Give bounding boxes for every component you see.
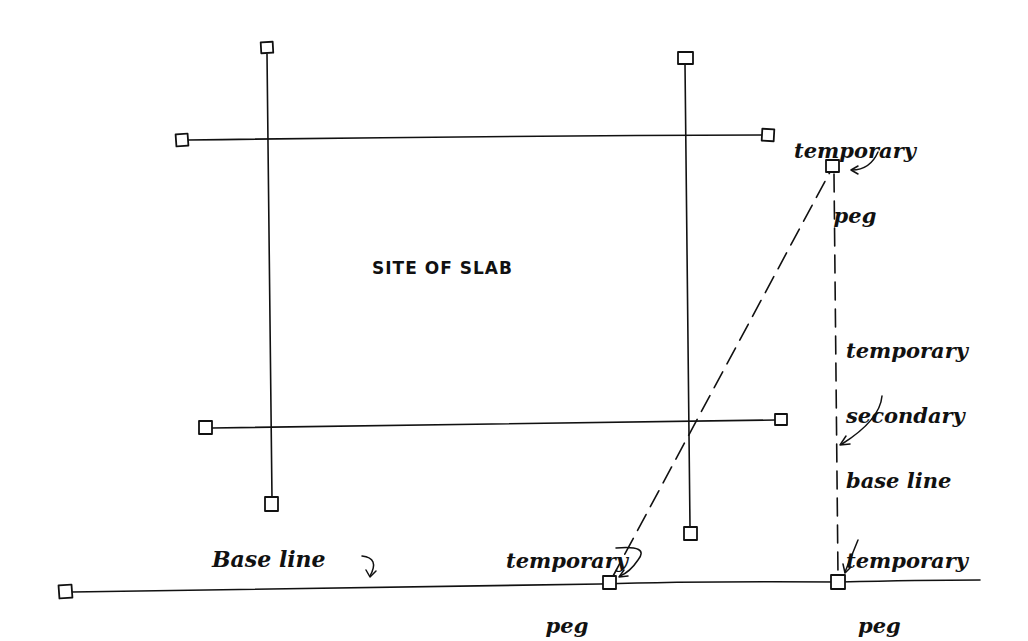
label-line: peg — [794, 205, 916, 226]
label-line: peg — [506, 615, 628, 636]
label-line: temporary — [794, 140, 916, 161]
left-vertical-line — [267, 54, 272, 499]
temporary-peg-bottom-mid-label: temporary peg — [506, 508, 628, 641]
peg-icon — [59, 585, 73, 599]
pegs — [59, 42, 845, 599]
label-line: temporary — [846, 550, 968, 571]
top-horizontal-line — [188, 135, 762, 140]
peg-icon — [261, 42, 274, 54]
temporary-secondary-base-line-label: temporary secondary base line — [846, 298, 968, 512]
peg-icon — [762, 129, 775, 142]
peg-icon — [678, 52, 693, 64]
site-of-slab-label: SITE OF SLAB — [372, 260, 513, 277]
label-line: base line — [846, 470, 968, 491]
peg-icon — [176, 134, 189, 147]
base-line-label: Base line — [212, 548, 326, 570]
temporary-peg-icon — [831, 575, 845, 589]
peg-icon — [775, 414, 787, 425]
peg-icon — [199, 421, 212, 434]
label-line: temporary — [506, 550, 628, 571]
temporary-peg-bottom-right-label: temporary peg — [846, 508, 968, 641]
peg-icon — [265, 497, 278, 511]
label-line: temporary — [846, 340, 968, 361]
temporary-peg-top-label: temporary peg — [794, 98, 916, 247]
bottom-horizontal-line — [212, 420, 775, 428]
label-line: peg — [846, 615, 968, 636]
label-line: secondary — [846, 405, 968, 426]
peg-icon — [684, 527, 697, 540]
right-vertical-line — [685, 64, 690, 527]
